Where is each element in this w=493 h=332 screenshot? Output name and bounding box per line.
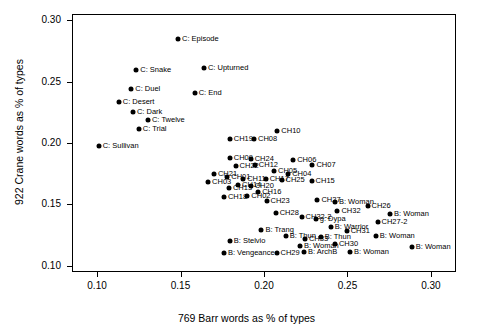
data-point bbox=[347, 249, 352, 254]
data-point-label: CH27-2 bbox=[382, 218, 408, 226]
data-point bbox=[291, 158, 296, 163]
data-point bbox=[245, 194, 250, 199]
y-axis-tick-label: 0.30 bbox=[21, 14, 61, 25]
x-axis-tick-label: 0.25 bbox=[327, 280, 367, 291]
data-point bbox=[328, 224, 333, 229]
data-point bbox=[283, 234, 288, 239]
y-axis-label: 922 Crane words as % of types bbox=[13, 12, 25, 252]
data-point-label: CH07 bbox=[316, 161, 335, 169]
data-point-label: B: Woman bbox=[354, 248, 389, 256]
y-axis-tick bbox=[67, 20, 72, 21]
y-axis-tick bbox=[67, 204, 72, 205]
x-axis-tick-label: 0.20 bbox=[244, 280, 284, 291]
data-point-label: C: Duel bbox=[135, 85, 160, 93]
data-point bbox=[388, 212, 393, 217]
y-axis-tick bbox=[67, 143, 72, 144]
data-point bbox=[375, 220, 380, 225]
data-point-label: CH27 bbox=[321, 196, 340, 204]
data-point-label: C: Trial bbox=[143, 125, 167, 133]
data-point-label: CH19 bbox=[234, 135, 253, 143]
x-axis-tick bbox=[264, 272, 265, 277]
data-point-label: CH23 bbox=[271, 197, 290, 205]
data-point bbox=[335, 209, 340, 214]
y-axis-tick-label: 0.10 bbox=[21, 260, 61, 271]
x-axis-tick-label: 0.30 bbox=[411, 280, 451, 291]
data-point bbox=[227, 156, 232, 161]
data-point bbox=[136, 127, 141, 132]
y-axis-tick bbox=[67, 266, 72, 267]
data-point bbox=[365, 203, 370, 208]
data-point bbox=[227, 136, 232, 141]
data-point bbox=[299, 215, 304, 220]
data-point bbox=[96, 144, 101, 149]
data-point-label: C: Desert bbox=[123, 98, 155, 106]
data-point bbox=[206, 180, 211, 185]
x-axis-tick bbox=[181, 272, 182, 277]
x-axis-tick-label: 0.10 bbox=[77, 280, 117, 291]
y-axis-tick-label: 0.20 bbox=[21, 137, 61, 148]
data-point bbox=[227, 238, 232, 243]
data-point-label: CH28 bbox=[280, 209, 299, 217]
data-point bbox=[176, 37, 181, 42]
data-point bbox=[272, 168, 277, 173]
data-point-label: B: Stelvio bbox=[234, 237, 266, 245]
data-point-label: CH08 bbox=[258, 135, 277, 143]
data-point bbox=[409, 244, 414, 249]
data-point bbox=[275, 128, 280, 133]
data-point bbox=[332, 199, 337, 204]
y-axis-tick-label: 0.25 bbox=[21, 76, 61, 87]
scatter-chart: C: EpisodeC: UpturnedC: SnakeC: DuelC: E… bbox=[0, 0, 493, 332]
data-point-label: C: Episode bbox=[182, 35, 219, 43]
data-point bbox=[259, 227, 264, 232]
data-point-label: C: End bbox=[199, 89, 222, 97]
data-point bbox=[221, 250, 226, 255]
data-point-label: B: Woman bbox=[380, 232, 415, 240]
data-point bbox=[145, 118, 150, 123]
data-point bbox=[373, 233, 378, 238]
data-point bbox=[116, 100, 121, 105]
data-point-label: B: Vengeance bbox=[228, 249, 275, 257]
data-point-label: CH31 bbox=[351, 227, 370, 235]
data-point bbox=[302, 250, 307, 255]
data-point bbox=[264, 199, 269, 204]
data-point bbox=[313, 217, 318, 222]
data-point-label: CH10 bbox=[281, 127, 300, 135]
data-point bbox=[279, 177, 284, 182]
data-point bbox=[273, 211, 278, 216]
data-point-label: CH26 bbox=[372, 202, 391, 210]
data-point-label: B: ArchB bbox=[308, 248, 337, 256]
data-point bbox=[332, 242, 337, 247]
data-point bbox=[226, 186, 231, 191]
data-point bbox=[221, 195, 226, 200]
data-point bbox=[134, 67, 139, 72]
data-point-label: CH25 bbox=[286, 176, 305, 184]
data-point bbox=[233, 163, 238, 168]
data-point bbox=[130, 110, 135, 115]
y-axis-tick-label: 0.15 bbox=[21, 198, 61, 209]
data-point bbox=[252, 163, 257, 168]
data-point bbox=[129, 86, 134, 91]
x-axis-tick bbox=[347, 272, 348, 277]
x-axis-tick bbox=[431, 272, 432, 277]
x-axis-tick bbox=[97, 272, 98, 277]
data-point-label: CH15 bbox=[316, 177, 335, 185]
y-axis-tick bbox=[67, 82, 72, 83]
data-point bbox=[251, 137, 256, 142]
data-point bbox=[201, 66, 206, 71]
data-point bbox=[310, 162, 315, 167]
data-point-label: B: Woman bbox=[416, 243, 451, 251]
data-point bbox=[315, 197, 320, 202]
data-point-label: C: Snake bbox=[140, 66, 171, 74]
data-point bbox=[192, 91, 197, 96]
x-axis-tick-label: 0.15 bbox=[161, 280, 201, 291]
data-point-label: C: Sullivan bbox=[103, 142, 139, 150]
data-point bbox=[274, 250, 279, 255]
data-point-label: C: Upturned bbox=[208, 64, 248, 72]
data-point bbox=[211, 171, 216, 176]
data-point bbox=[318, 234, 323, 239]
data-point-label: C: Twelve bbox=[152, 116, 185, 124]
x-axis-label: 769 Barr words as % of types bbox=[0, 312, 493, 324]
data-point-label: CH29 bbox=[281, 249, 300, 257]
data-point bbox=[309, 179, 314, 184]
